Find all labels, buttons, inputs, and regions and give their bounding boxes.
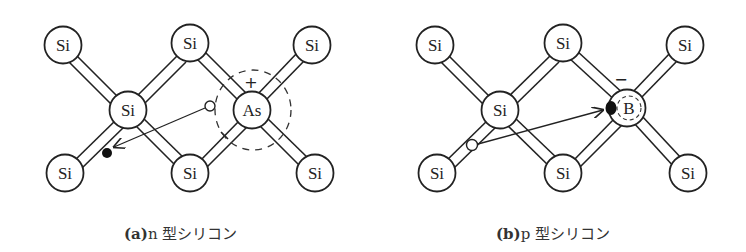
svg-text:Si: Si [678,36,692,55]
svg-text:Si: Si [56,36,70,55]
svg-text:Si: Si [493,101,507,120]
svg-text:Si: Si [183,34,197,53]
caption-a-prefix: (a) [124,225,148,243]
svg-text:Si: Si [183,164,197,183]
atom-si: Si [417,27,454,64]
atom-si: Si [545,25,582,62]
atom-si: Si [482,92,519,129]
svg-text:Si: Si [121,101,135,120]
panel-b-bonds [438,51,683,170]
panel-b-atoms: Si Si Si Si B Si Si Si [417,25,707,192]
negative-charge-sign: − [614,70,627,89]
caption-b-prefix: (b) [496,225,521,243]
atom-si: Si [667,27,704,64]
positive-charge-sign: + [244,73,257,92]
caption-a: (a)n 型シリコン [124,222,237,243]
diagram-stage: Si Si Si Si As Si Si Si + Si Si Si Si [0,0,746,252]
svg-text:Si: Si [308,164,322,183]
atom-si: Si [110,92,147,129]
hole-open-circle [467,140,478,151]
atom-si: Si [172,25,209,62]
svg-text:B: B [623,99,634,118]
atom-si: Si [45,27,82,64]
svg-text:Si: Si [58,164,72,183]
atom-si: Si [670,155,707,192]
svg-text:As: As [243,101,262,120]
svg-text:Si: Si [556,164,570,183]
caption-b: (b)p 型シリコン [496,222,610,243]
svg-text:Si: Si [430,164,444,183]
electron-origin-open-circle [205,101,215,111]
silicon-lattice-diagram: Si Si Si Si As Si Si Si + Si Si Si Si [0,0,746,252]
svg-text:Si: Si [556,34,570,53]
caption-b-text: p 型シリコン [521,225,610,243]
svg-text:Si: Si [305,36,319,55]
atom-as-dopant: As [234,92,271,129]
atom-si: Si [297,155,334,192]
atom-si: Si [294,27,331,64]
panel-a-atoms: Si Si Si Si As Si Si Si [45,25,334,192]
captured-electron-dot [606,101,617,115]
caption-a-text: n 型シリコン [148,225,237,243]
atom-si: Si [47,155,84,192]
atom-si: Si [419,155,456,192]
atom-si: Si [172,155,209,192]
svg-text:Si: Si [681,164,695,183]
svg-text:Si: Si [428,36,442,55]
free-electron-dot [102,148,112,158]
atom-si: Si [545,155,582,192]
